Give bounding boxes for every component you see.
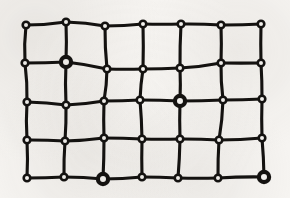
lattice-node[interactable] [140,21,147,28]
lattice-edge [27,177,64,178]
lattice-node[interactable] [259,96,266,103]
lattice-edge [181,24,221,25]
lattice-node[interactable] [24,137,31,144]
lattice-node[interactable] [215,175,222,182]
lattice-node[interactable] [101,98,108,105]
lattice-edge [140,100,142,139]
lattice-edge [104,69,107,101]
lattice-node[interactable] [177,65,184,72]
lattice-edge [219,138,262,140]
lattice-edge [104,138,142,139]
lattice-node[interactable] [104,66,111,73]
lattice-node[interactable] [63,102,70,109]
lattice-diagram [0,0,290,198]
lattice-node[interactable] [24,175,31,182]
lattice-node[interactable] [175,175,182,182]
lattice-node[interactable] [102,23,109,30]
lattice-node[interactable] [258,21,265,28]
lattice-edge [218,140,219,178]
lattice-node[interactable] [101,135,108,142]
lattice-edge [219,100,223,140]
lattice-edge [25,25,26,63]
lattice-node[interactable] [63,19,70,26]
lattice-node[interactable] [139,174,146,181]
lattice-edge [180,139,219,140]
lattice-edge [65,138,104,141]
lattice-edge [180,63,221,68]
lattice-node[interactable] [140,66,147,73]
lattice-node-marked[interactable] [259,172,269,182]
lattice-node[interactable] [220,97,227,104]
lattice-edge [223,99,262,100]
lattice-edge [105,26,107,69]
lattice-edge [261,63,262,99]
lattice-edge [105,24,143,26]
lattice-node-marked[interactable] [175,96,185,106]
lattice-node[interactable] [218,60,225,67]
lattice-node[interactable] [61,174,68,181]
lattice-edge [27,140,28,178]
lattice-edge [65,105,66,141]
lattice-node[interactable] [139,136,146,143]
lattice-edge [26,22,66,25]
lattice-node[interactable] [216,137,223,144]
lattice-node[interactable] [258,60,265,67]
lattice-node[interactable] [23,22,30,29]
lattice-node[interactable] [62,138,69,145]
lattice-edge [143,68,180,69]
lattice-edge [27,140,65,141]
lattice-edge [180,24,181,68]
lattice-edge [64,141,65,177]
lattice-figure [0,0,290,198]
lattice-edge [221,63,223,100]
lattice-node[interactable] [137,97,144,104]
lattice-edge [140,69,143,100]
lattice-edge [142,177,178,178]
lattice-node[interactable] [259,135,266,142]
lattice-edge [221,24,261,25]
lattice-node-marked[interactable] [98,174,108,184]
lattice-edge [66,101,104,105]
lattice-node[interactable] [178,21,185,28]
lattice-node[interactable] [24,99,31,106]
lattice-edge [27,102,66,105]
lattice-node[interactable] [22,60,29,67]
lattice-node[interactable] [218,22,225,29]
lattice-node-marked[interactable] [61,57,71,67]
lattice-edge [104,100,140,101]
lattice-node[interactable] [177,136,184,143]
lattice-edge [25,63,27,102]
lattice-edge [178,139,180,178]
lattice-edge [66,22,105,26]
lattice-edge [26,102,27,140]
